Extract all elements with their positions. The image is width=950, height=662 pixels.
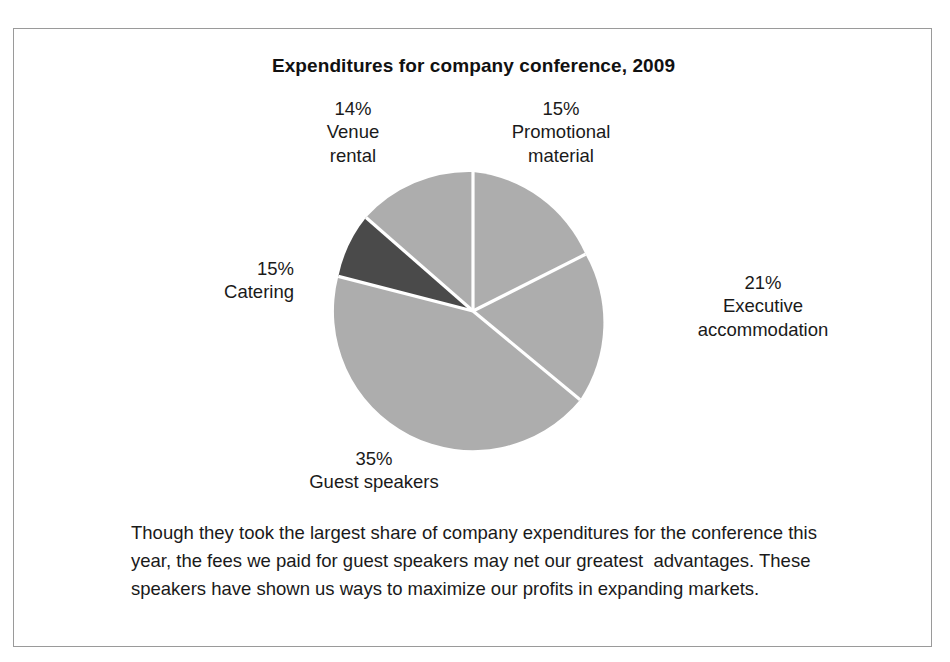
body-text-block: Though they took the largest share of co…	[131, 519, 831, 603]
pie-label-executive-accommodation-name-line2: accommodation	[632, 318, 894, 341]
pie-label-promotional-material: 15% Promotional material	[466, 97, 656, 167]
pie-label-catering-name: Catering	[144, 280, 294, 303]
document-frame: Expenditures for company conference, 200…	[13, 28, 932, 647]
pie-label-executive-accommodation-name-line1: Executive	[632, 294, 894, 317]
pie-label-venue-rental-name-line2: rental	[278, 144, 428, 167]
pie-label-promotional-material-percent: 15%	[466, 97, 656, 120]
pie-label-catering-percent: 15%	[144, 257, 294, 280]
pie-label-promotional-material-name-line1: Promotional	[466, 120, 656, 143]
pie-label-executive-accommodation-percent: 21%	[632, 271, 894, 294]
body-paragraph: Though they took the largest share of co…	[131, 519, 831, 603]
pie-chart-graphic	[333, 171, 613, 451]
pie-label-executive-accommodation: 21% Executive accommodation	[632, 271, 894, 341]
pie-label-guest-speakers-percent: 35%	[264, 447, 484, 470]
pie-label-guest-speakers: 35% Guest speakers	[264, 447, 484, 494]
pie-label-venue-rental-percent: 14%	[278, 97, 428, 120]
pie-label-venue-rental-name-line1: Venue	[278, 120, 428, 143]
pie-label-guest-speakers-name: Guest speakers	[264, 470, 484, 493]
pie-label-venue-rental: 14% Venue rental	[278, 97, 428, 167]
pie-label-catering: 15% Catering	[144, 257, 294, 304]
pie-chart-figure: 14% Venue rental 15% Promotional materia…	[14, 29, 933, 519]
pie-label-promotional-material-name-line2: material	[466, 144, 656, 167]
